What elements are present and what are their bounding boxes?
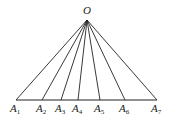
ray-segment: [16, 20, 87, 100]
point-subscript: 7: [158, 108, 162, 116]
point-subscript: 5: [101, 108, 105, 116]
point-label: A5: [93, 102, 105, 116]
point-label: A2: [35, 102, 47, 116]
apex-label: O: [83, 4, 91, 16]
point-subscript: 4: [79, 108, 83, 116]
point-label: A4: [71, 102, 83, 116]
point-subscript: 1: [17, 108, 21, 116]
point-label: A3: [54, 102, 66, 116]
fan-of-segments-figure: OA1A2A3A4A5A6A7: [0, 0, 171, 122]
point-label: A7: [150, 102, 162, 116]
point-subscript: 3: [62, 108, 66, 116]
point-subscript: 6: [126, 108, 130, 116]
geometry-diagram: OA1A2A3A4A5A6A7: [0, 0, 171, 122]
point-label: A6: [118, 102, 130, 116]
ray-segment: [78, 20, 87, 100]
ray-segment: [87, 20, 157, 100]
point-label: A1: [9, 102, 21, 116]
ray-segment: [87, 20, 125, 100]
point-subscript: 2: [43, 108, 47, 116]
